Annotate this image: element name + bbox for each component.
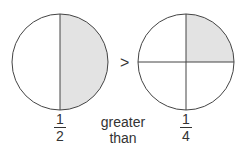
caption: greater than [93,114,153,143]
greater-than-symbol: > [120,54,129,72]
denominator: 2 [56,128,64,143]
half-circle [12,14,108,110]
quarter-circle [138,14,234,110]
numerator: 1 [56,111,64,127]
caption-line1: greater [93,114,153,130]
fraction-one-half: 1 2 [50,112,70,143]
fraction-one-quarter: 1 4 [176,112,196,143]
caption-line2: than [93,130,153,143]
denominator: 4 [182,128,190,143]
numerator: 1 [182,111,190,127]
